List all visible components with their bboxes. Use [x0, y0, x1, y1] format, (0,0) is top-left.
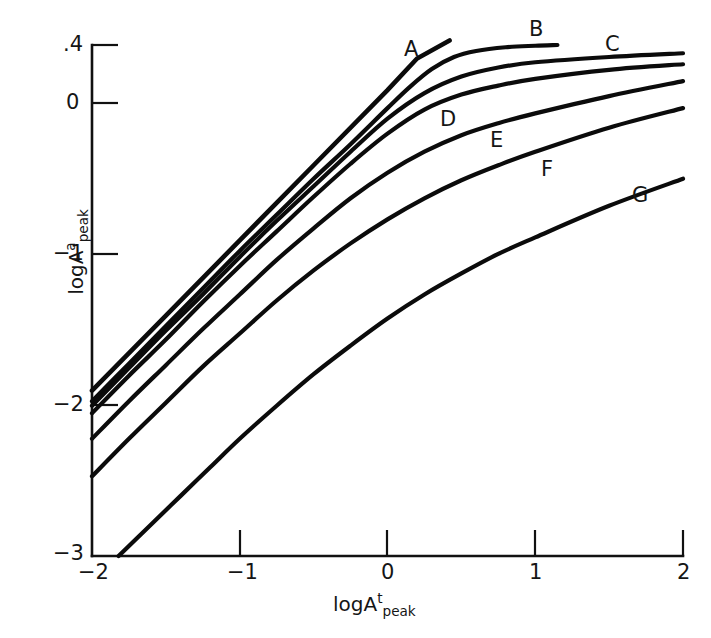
curve-label-b: B [529, 17, 543, 41]
x-tick-label-0: 0 [381, 560, 394, 584]
curve-f [92, 108, 683, 476]
curve-label-g: G [632, 183, 648, 207]
curves-group [92, 40, 683, 556]
x-axis-title-main: logA [333, 592, 377, 616]
x-tick-label-minus2: −2 [78, 560, 109, 584]
curve-label-f: F [541, 157, 553, 181]
x-tick-label-2: 2 [677, 560, 690, 584]
x-tick-label-minus1: −1 [227, 560, 258, 584]
y-axis-title-sup: a [62, 242, 78, 250]
x-axis-title: logAtpeak [333, 592, 416, 616]
curve-label-e: E [490, 128, 503, 152]
y-axis-title-main: logA [64, 251, 88, 295]
plot-canvas [0, 0, 711, 638]
y-tick-label-minus2: −2 [53, 392, 84, 416]
x-axis-title-sub: peak [383, 603, 416, 619]
chart-figure: .4 0 −1 −2 −3 −2 −1 0 1 2 A B C D E F G … [0, 0, 711, 638]
curve-b [92, 45, 557, 401]
y-tick-label-0.4: .4 [63, 32, 83, 56]
y-tick-label-0: 0 [66, 90, 79, 114]
y-axis-title-sub: peak [75, 209, 91, 242]
curve-label-d: D [440, 107, 456, 131]
y-axis-title-wrapper: logAapeak [64, 182, 92, 322]
curve-label-a: A [404, 37, 418, 61]
curve-label-c: C [605, 32, 620, 56]
y-axis-title: logAapeak [64, 209, 88, 295]
x-tick-label-1: 1 [529, 560, 542, 584]
